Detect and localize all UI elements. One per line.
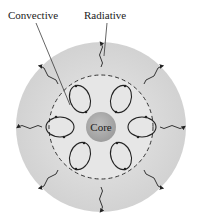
star-structure-diagram: Core bbox=[0, 0, 205, 216]
core-label: Core bbox=[90, 121, 112, 133]
